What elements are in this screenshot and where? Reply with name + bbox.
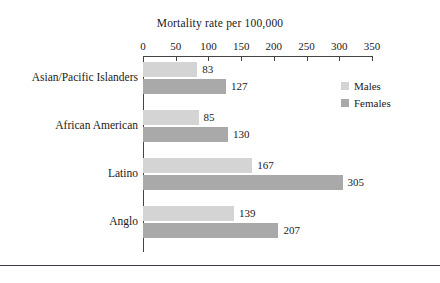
bar-females-2	[143, 175, 343, 190]
bar-value-males-3: 139	[239, 206, 256, 221]
category-label-1: African American	[3, 119, 138, 131]
bar-value-females-2: 305	[348, 175, 365, 190]
mortality-rate-bar-chart: Mortality rate per 100,000 0501001502002…	[0, 0, 440, 283]
bar-males-0	[143, 62, 197, 77]
bar-value-females-0: 127	[231, 79, 248, 94]
x-tick-label-0: 0	[140, 40, 146, 52]
x-tick-label-300: 300	[331, 40, 348, 52]
page-divider	[0, 265, 440, 266]
category-labels: Asian/Pacific IslandersAfrican AmericanL…	[0, 0, 138, 283]
bar-females-1	[143, 127, 228, 142]
chart-legend: Males Females	[341, 78, 391, 112]
x-tick-label-200: 200	[266, 40, 283, 52]
bar-value-females-1: 130	[233, 127, 250, 142]
bar-males-2	[143, 158, 252, 173]
category-label-0: Asian/Pacific Islanders	[3, 71, 138, 83]
bar-females-3	[143, 223, 278, 238]
bar-males-3	[143, 206, 234, 221]
bar-value-females-3: 207	[283, 223, 300, 238]
legend-item-females: Females	[341, 95, 391, 110]
bar-males-1	[143, 110, 199, 125]
legend-swatch-males-icon	[341, 82, 349, 90]
x-tick-label-100: 100	[200, 40, 217, 52]
legend-item-males: Males	[341, 78, 391, 93]
bar-value-males-0: 83	[202, 62, 213, 77]
bar-value-males-2: 167	[257, 158, 274, 173]
category-label-2: Latino	[3, 167, 138, 179]
legend-label-males: Males	[354, 80, 381, 92]
legend-label-females: Females	[354, 97, 391, 109]
plot-area: 8312785130167305139207	[143, 56, 372, 252]
x-axis-end-tick	[372, 56, 373, 61]
x-tick-label-250: 250	[298, 40, 315, 52]
bar-value-males-1: 85	[204, 110, 215, 125]
bar-females-0	[143, 79, 226, 94]
x-tick-label-350: 350	[364, 40, 381, 52]
legend-swatch-females-icon	[341, 99, 349, 107]
x-tick-label-50: 50	[170, 40, 181, 52]
category-label-3: Anglo	[3, 215, 138, 227]
x-tick-label-150: 150	[233, 40, 250, 52]
